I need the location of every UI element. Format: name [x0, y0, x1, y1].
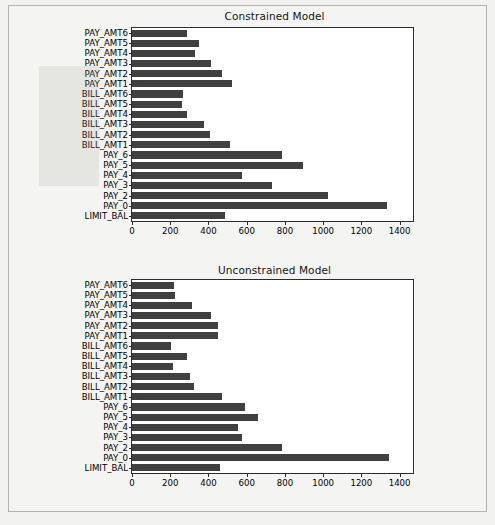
- bar: [132, 162, 303, 169]
- y-tick-label: PAY_5: [103, 160, 128, 170]
- y-tick-label: PAY_AMT5: [85, 38, 128, 48]
- bar: [132, 363, 173, 370]
- bar: [132, 141, 230, 148]
- y-tick-label: LIMIT_BAL: [85, 463, 128, 473]
- x-tick-mark: [170, 221, 171, 225]
- y-tick-label: BILL_AMT6: [82, 89, 128, 99]
- y-tick-label: PAY_AMT4: [85, 48, 128, 58]
- bar-row: PAY_AMT2: [132, 69, 413, 79]
- bar-row: PAY_5: [132, 160, 413, 170]
- x-tick-mark: [361, 473, 362, 477]
- bar-row: PAY_2: [132, 443, 413, 453]
- y-tick-label: PAY_5: [103, 412, 128, 422]
- bar-row: PAY_AMT1: [132, 331, 413, 341]
- y-tick-label: BILL_AMT2: [82, 382, 128, 392]
- bar: [132, 60, 211, 67]
- y-tick-label: PAY_AMT3: [85, 58, 128, 68]
- figure-frame: Constrained Model PAY_AMT6PAY_AMT5PAY_AM…: [8, 5, 487, 512]
- y-tick-label: PAY_3: [103, 432, 128, 442]
- y-tick-label: BILL_AMT1: [82, 392, 128, 402]
- chart-title-constrained: Constrained Model: [9, 10, 488, 22]
- bar-row: PAY_AMT6: [132, 28, 413, 38]
- bar: [132, 414, 258, 421]
- y-tick-label: PAY_AMT6: [85, 280, 128, 290]
- x-tick-label: 200: [162, 478, 178, 488]
- bar-row: PAY_4: [132, 170, 413, 180]
- y-tick-label: BILL_AMT1: [82, 140, 128, 150]
- x-tick-label: 800: [277, 478, 293, 488]
- y-tick-label: BILL_AMT3: [82, 119, 128, 129]
- x-tick-mark: [400, 221, 401, 225]
- bar-row: PAY_AMT4: [132, 300, 413, 310]
- x-tick-mark: [323, 473, 324, 477]
- bar-row: PAY_0: [132, 453, 413, 463]
- bar-row: PAY_AMT5: [132, 38, 413, 48]
- y-tick-label: PAY_0: [103, 453, 128, 463]
- y-tick-label: PAY_4: [103, 422, 128, 432]
- x-tick-mark: [400, 473, 401, 477]
- y-tick-label: LIMIT_BAL: [85, 211, 128, 221]
- bar: [132, 121, 204, 128]
- bar: [132, 172, 242, 179]
- bar-row: BILL_AMT2: [132, 130, 413, 140]
- bar: [132, 90, 183, 97]
- bar: [132, 40, 199, 47]
- figure-canvas: Constrained Model PAY_AMT6PAY_AMT5PAY_AM…: [0, 0, 495, 525]
- bar: [132, 403, 245, 410]
- x-tick-label: 600: [238, 226, 254, 236]
- y-tick-label: BILL_AMT3: [82, 371, 128, 381]
- bar: [132, 50, 195, 57]
- bar-row: PAY_2: [132, 191, 413, 201]
- bar-row: PAY_AMT5: [132, 290, 413, 300]
- bar-row: PAY_4: [132, 422, 413, 432]
- y-tick-label: BILL_AMT4: [82, 361, 128, 371]
- y-tick-label: PAY_AMT3: [85, 310, 128, 320]
- bars-container-constrained: PAY_AMT6PAY_AMT5PAY_AMT4PAY_AMT3PAY_AMT2…: [132, 28, 413, 221]
- bar: [132, 192, 328, 199]
- y-tick-label: PAY_2: [103, 443, 128, 453]
- bar: [132, 393, 222, 400]
- y-tick-label: PAY_AMT1: [85, 331, 128, 341]
- bar-row: BILL_AMT3: [132, 119, 413, 129]
- bar-row: BILL_AMT5: [132, 99, 413, 109]
- bar-row: BILL_AMT5: [132, 351, 413, 361]
- x-tick-mark: [132, 473, 133, 477]
- bar: [132, 302, 192, 309]
- bar-row: PAY_AMT1: [132, 79, 413, 89]
- bar: [132, 434, 242, 441]
- chart-panel-constrained: Constrained Model PAY_AMT6PAY_AMT5PAY_AM…: [9, 6, 488, 260]
- bar: [132, 312, 211, 319]
- x-tick-label: 0: [129, 478, 134, 488]
- x-tick-label: 1400: [389, 226, 411, 236]
- bar: [132, 373, 190, 380]
- bar: [132, 464, 220, 471]
- y-tick-label: BILL_AMT4: [82, 109, 128, 119]
- y-tick-label: PAY_AMT4: [85, 300, 128, 310]
- bar-row: PAY_0: [132, 201, 413, 211]
- bar-row: PAY_3: [132, 180, 413, 190]
- bar-row: PAY_AMT3: [132, 58, 413, 68]
- x-tick-mark: [285, 221, 286, 225]
- bar: [132, 292, 175, 299]
- y-tick-label: BILL_AMT5: [82, 99, 128, 109]
- x-tick-label: 800: [277, 226, 293, 236]
- bar-row: PAY_5: [132, 412, 413, 422]
- y-tick-label: PAY_AMT2: [85, 321, 128, 331]
- x-tick-mark: [323, 221, 324, 225]
- y-tick-label: PAY_AMT5: [85, 290, 128, 300]
- bar: [132, 182, 272, 189]
- bar: [132, 342, 171, 349]
- plot-area-unconstrained: PAY_AMT6PAY_AMT5PAY_AMT4PAY_AMT3PAY_AMT2…: [131, 279, 414, 474]
- x-tick-mark: [208, 473, 209, 477]
- x-tick-mark: [132, 221, 133, 225]
- bar: [132, 383, 194, 390]
- x-tick-label: 600: [238, 478, 254, 488]
- bar-row: BILL_AMT3: [132, 371, 413, 381]
- bar: [132, 30, 187, 37]
- y-tick-label: PAY_3: [103, 180, 128, 190]
- bar: [132, 101, 182, 108]
- bar: [132, 80, 232, 87]
- bar: [132, 151, 282, 158]
- bar-row: BILL_AMT4: [132, 109, 413, 119]
- x-tick-label: 200: [162, 226, 178, 236]
